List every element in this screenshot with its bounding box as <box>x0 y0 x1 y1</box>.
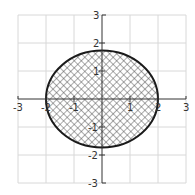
x-tick-label: -3 <box>13 102 23 113</box>
x-tick-label: -2 <box>41 102 51 113</box>
x-tick-label: -1 <box>69 102 79 113</box>
y-tick-label: -2 <box>88 150 98 161</box>
y-tick-label: -1 <box>88 122 98 133</box>
y-tick-label: -3 <box>88 178 98 189</box>
y-tick-label: 3 <box>93 10 99 21</box>
ellipse-region-graph: -3 -2 -1 1 2 3 3 2 1 -1 -2 -3 <box>0 0 195 195</box>
y-tick-label: 2 <box>93 38 99 49</box>
x-tick-label: 3 <box>183 102 189 113</box>
x-tick-label: 2 <box>155 102 161 113</box>
axes <box>18 15 186 183</box>
y-tick-label: 1 <box>93 66 99 77</box>
x-tick-label: 1 <box>127 102 133 113</box>
